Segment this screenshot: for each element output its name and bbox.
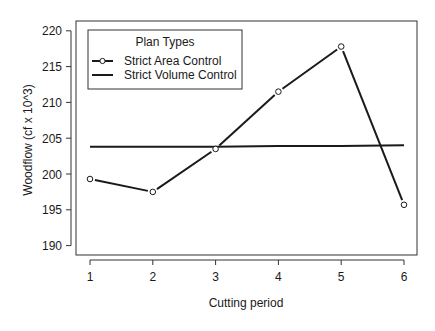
y-tick-label: 210 (42, 96, 62, 110)
y-tick-label: 200 (42, 168, 62, 182)
area-segment (219, 95, 274, 146)
area-data-point-marker (276, 89, 282, 95)
area-segment (95, 180, 148, 191)
woodflow-line-chart: 190195200205210215220 123456 Cutting per… (0, 0, 435, 331)
legend-entry-area: Strict Area Control (124, 54, 221, 68)
series-strict-volume-control (90, 145, 404, 146)
x-tick-label: 5 (338, 270, 345, 284)
y-axis: 190195200205210215220 (42, 24, 71, 253)
y-tick-label: 205 (42, 132, 62, 146)
area-data-point-marker (338, 44, 344, 50)
area-segment (282, 49, 337, 88)
area-segment (343, 51, 402, 200)
y-tick-label: 190 (42, 239, 62, 253)
area-data-point-marker (150, 189, 156, 195)
x-axis: 123456 (87, 260, 408, 284)
area-data-point-marker (87, 176, 93, 182)
legend-title: Plan Types (135, 35, 194, 49)
area-segment (157, 152, 212, 189)
y-tick-label: 215 (42, 60, 62, 74)
y-tick-label: 220 (42, 24, 62, 38)
legend-area-marker-icon (100, 58, 105, 63)
x-tick-label: 2 (149, 270, 156, 284)
x-tick-label: 6 (401, 270, 408, 284)
legend: Plan Types Strict Area Control Strict Vo… (88, 30, 242, 89)
x-tick-label: 3 (212, 270, 219, 284)
x-tick-label: 4 (275, 270, 282, 284)
area-data-point-marker (213, 146, 219, 152)
x-tick-label: 1 (87, 270, 94, 284)
y-tick-label: 195 (42, 203, 62, 217)
area-data-point-marker (401, 202, 407, 208)
legend-entry-volume: Strict Volume Control (124, 68, 237, 82)
x-axis-title: Cutting period (209, 296, 284, 310)
y-axis-title: Woodflow (cf x 10^3) (21, 84, 35, 195)
